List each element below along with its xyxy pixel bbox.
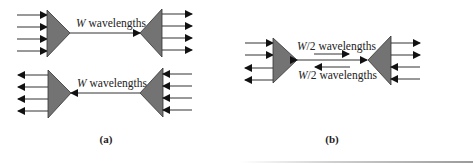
mux-input-arrows — [17, 15, 47, 51]
right-port-arrows — [391, 43, 420, 79]
link-label: W wavelengths — [76, 17, 146, 30]
caption-b: (b) — [325, 133, 339, 146]
mux-input-arrows — [163, 74, 192, 110]
multiplexer-triangle — [140, 68, 163, 117]
left-mux-demux-triangle — [273, 38, 297, 83]
demux-output-arrows — [162, 14, 192, 50]
bottom-divider — [240, 161, 473, 163]
panel-a-bottom-link: W wavelengths — [18, 68, 192, 118]
lower-direction-label: W/2 wavelengths — [298, 69, 377, 82]
panel-b-bidirectional-link: W/2 wavelengths W/2 wavelengths — [245, 36, 420, 85]
panel-a-top-link: W wavelengths — [17, 9, 192, 57]
upper-direction-label: W/2 wavelengths — [297, 40, 376, 53]
demux-output-arrows — [18, 75, 48, 111]
left-port-arrows — [245, 43, 273, 80]
link-label: W wavelengths — [77, 77, 147, 90]
caption-a: (a) — [100, 133, 113, 146]
multiplexer-triangle — [47, 10, 70, 57]
demultiplexer-triangle — [48, 70, 71, 118]
